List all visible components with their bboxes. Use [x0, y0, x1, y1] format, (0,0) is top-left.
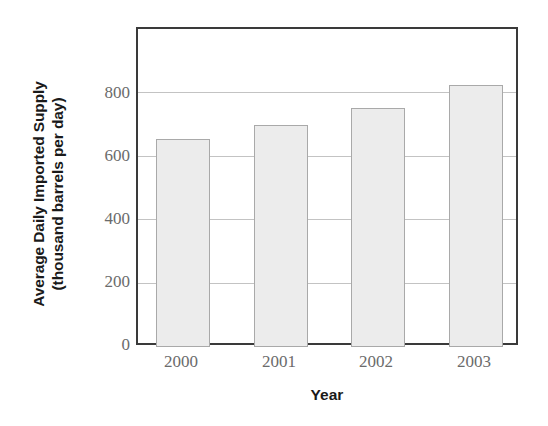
- y-axis-title-line2: (thousand barrels per day): [48, 29, 67, 359]
- bar-2000: [156, 139, 210, 347]
- plot-area: [136, 27, 518, 345]
- bar-2002: [351, 108, 405, 347]
- y-tick-label-400: 400: [82, 210, 130, 227]
- y-tick-label-600: 600: [82, 147, 130, 164]
- x-tick-label-2002: 2002: [336, 352, 416, 372]
- y-tick-label-200: 200: [82, 273, 130, 290]
- bar-2001: [254, 125, 308, 347]
- y-axis-tick-labels: 800 600 400 200 0: [80, 0, 130, 426]
- plot-inner: [138, 29, 516, 343]
- bar-2003: [449, 85, 503, 347]
- y-tick-label-800: 800: [82, 84, 130, 101]
- x-tick-label-2000: 2000: [141, 352, 221, 372]
- bar-chart-figure: Average Daily Imported Supply (thousand …: [0, 0, 548, 426]
- x-tick-label-2001: 2001: [239, 352, 319, 372]
- x-tick-label-2003: 2003: [434, 352, 514, 372]
- x-axis-title: Year: [136, 386, 518, 404]
- y-axis-title: Average Daily Imported Supply (thousand …: [29, 29, 81, 359]
- y-tick-label-0: 0: [82, 336, 130, 353]
- y-axis-title-line1: Average Daily Imported Supply: [29, 29, 48, 359]
